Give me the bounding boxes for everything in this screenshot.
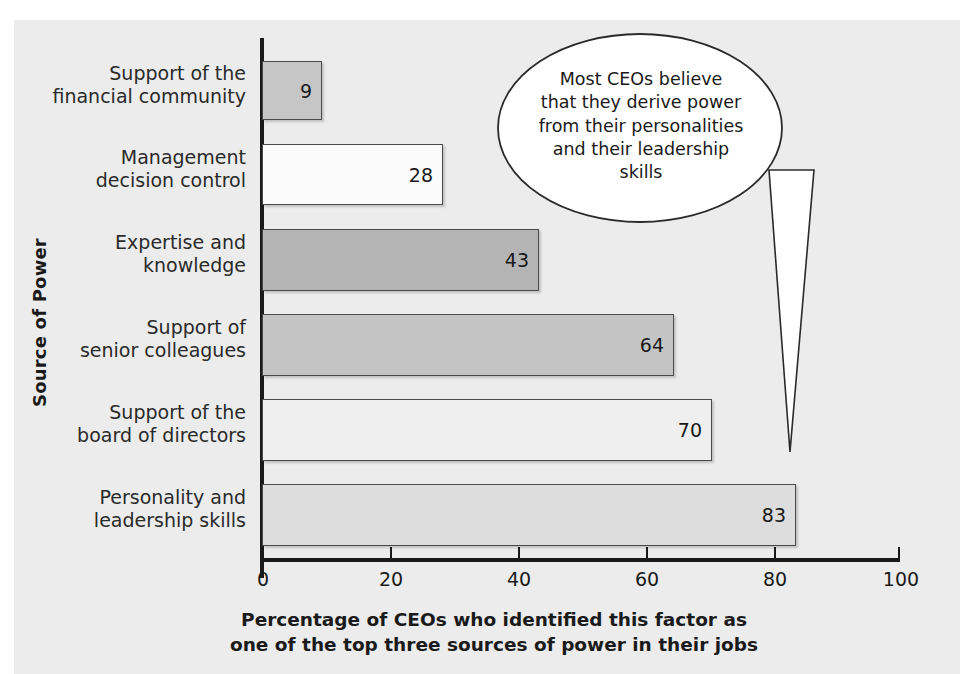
x-axis-title-line1: Percentage of CEOs who identified this f…	[194, 608, 794, 633]
callout-text: Most CEOs believe that they derive power…	[506, 68, 776, 184]
x-tick-40	[518, 547, 520, 558]
x-tick-label-60: 60	[617, 568, 677, 590]
x-axis-line	[260, 558, 900, 562]
y-axis-title: Source of Power	[29, 203, 50, 443]
x-axis-title-line2: one of the top three sources of power in…	[194, 633, 794, 658]
x-tick-label-80: 80	[745, 568, 805, 590]
bar-value-label: 43	[505, 251, 529, 270]
callout-text-line2: that they derive power	[506, 91, 776, 114]
category-label-line2: financial community	[0, 85, 246, 108]
bar-value-label: 70	[678, 421, 702, 440]
x-tick-0	[262, 547, 264, 558]
x-tick-100	[898, 547, 900, 558]
x-tick-80	[774, 547, 776, 558]
category-label-management-decision-control: Management decision control	[0, 146, 246, 192]
bar-support-senior-colleagues: 64	[262, 314, 674, 376]
callout-text-line4: and their leadership	[506, 138, 776, 161]
callout-text-line3: from their personalities	[506, 115, 776, 138]
category-label-line1: Management	[0, 146, 246, 169]
category-label-line1: Support of the	[0, 62, 246, 85]
bar-support-board-of-directors: 70	[262, 399, 712, 461]
category-label-line2: leadership skills	[0, 509, 246, 532]
x-tick-60	[646, 547, 648, 558]
figure-page: 0 20 40 60 80 100 9 28 43 64 70 83 Suppo…	[14, 20, 960, 674]
x-tick-20	[390, 547, 392, 558]
bar-expertise-and-knowledge: 43	[262, 229, 539, 291]
callout-text-line1: Most CEOs believe	[506, 68, 776, 91]
x-axis-title: Percentage of CEOs who identified this f…	[194, 608, 794, 658]
x-tick-label-40: 40	[489, 568, 549, 590]
bar-value-label: 28	[409, 165, 433, 184]
callout-text-line5: skills	[506, 161, 776, 184]
x-tick-label-20: 20	[361, 568, 421, 590]
bar-personality-leadership-skills: 83	[262, 484, 796, 546]
bar-support-financial-community: 9	[262, 61, 322, 120]
bar-value-label: 9	[300, 81, 312, 100]
bar-value-label: 64	[640, 336, 664, 355]
category-label-line1: Personality and	[0, 486, 246, 509]
category-label-line2: decision control	[0, 169, 246, 192]
bar-value-label: 83	[762, 506, 786, 525]
x-tick-label-100: 100	[871, 568, 931, 590]
x-tick-label-0: 0	[233, 568, 293, 590]
category-label-support-financial-community: Support of the financial community	[0, 62, 246, 108]
bar-chart: 0 20 40 60 80 100 9 28 43 64 70 83 Suppo…	[14, 20, 960, 674]
bar-management-decision-control: 28	[262, 144, 443, 205]
callout-tail	[769, 170, 814, 452]
category-label-personality-leadership-skills: Personality and leadership skills	[0, 486, 246, 532]
